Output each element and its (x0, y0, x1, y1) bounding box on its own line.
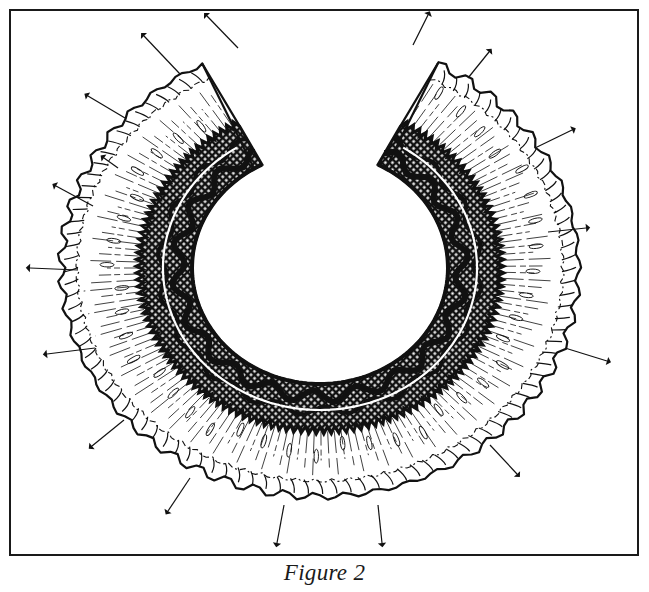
collar-illustration (0, 0, 649, 592)
pin-head-icon (486, 49, 493, 55)
figure-caption: Figure 2 (0, 560, 649, 586)
pin-shaft (168, 478, 190, 511)
pin-shaft (565, 348, 607, 361)
pin-shaft (144, 36, 180, 74)
neck-edge (192, 165, 448, 384)
pin-shaft (468, 52, 489, 78)
pin-shaft (88, 96, 125, 118)
pin-shaft (92, 420, 124, 446)
pin-head-icon (43, 350, 48, 358)
pin-shaft (378, 505, 382, 543)
pin-head-icon (165, 509, 172, 515)
pin-shaft (207, 16, 238, 48)
pin-head-icon (89, 443, 95, 450)
pin-head-icon (378, 543, 386, 548)
pin-shaft (277, 505, 284, 543)
pin-shaft (413, 15, 428, 45)
collar (58, 62, 581, 499)
pin-head-icon (26, 264, 30, 272)
pin-head-icon (84, 92, 90, 99)
frill-pleat (73, 209, 88, 210)
pin-shaft (490, 445, 517, 474)
pin-head-icon (586, 224, 591, 232)
pin-shaft (535, 130, 572, 148)
